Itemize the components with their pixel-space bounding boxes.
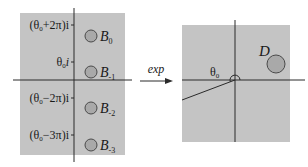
- tick-label-theta0-plus-2pi: (θ0+2π)i: [30, 18, 70, 33]
- right-plane: θ0 D: [182, 20, 305, 142]
- tick-label-theta0-minus-2pi: (θ0−2π)i: [30, 91, 70, 106]
- disk-d-label: D: [258, 43, 270, 59]
- left-plane: (θ0+2π)i θ0i (θ0−2π)i (θ0−3π)i B0 B-1 B-…: [13, 8, 132, 162]
- arrow-head-icon: [165, 78, 173, 84]
- map-label: exp: [148, 62, 165, 76]
- tick-label-theta0-minus-3pi: (θ0−3π)i: [30, 128, 70, 143]
- exp-map-diagram: (θ0+2π)i θ0i (θ0−2π)i (θ0−3π)i B0 B-1 B-…: [0, 0, 308, 167]
- exp-map-arrow: exp: [140, 62, 173, 84]
- right-plane-background: [182, 25, 290, 142]
